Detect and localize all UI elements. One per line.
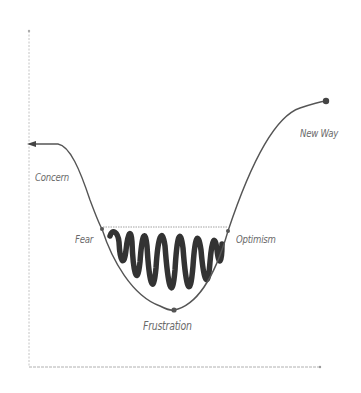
y-axis-end-dot (28, 30, 30, 32)
label-concern: Concern (35, 171, 69, 184)
fear-point (100, 227, 104, 231)
label-fear: Fear (75, 233, 93, 246)
optimism-point (226, 229, 230, 233)
label-new-way: New Way (300, 127, 338, 140)
new-way-point (323, 98, 329, 104)
concern-arrow-icon (27, 141, 36, 147)
x-axis-end-dot (319, 366, 321, 368)
change-curve (30, 101, 326, 310)
change-curve-diagram (0, 0, 361, 393)
label-optimism: Optimism (236, 233, 276, 246)
frustration-point (171, 307, 176, 312)
label-frustration: Frustration (143, 319, 192, 333)
